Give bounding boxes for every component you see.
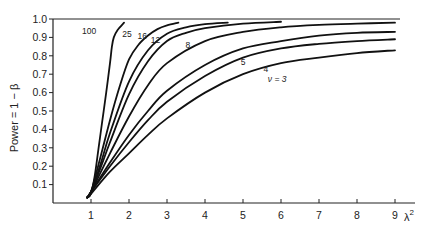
power-curve [87, 22, 281, 198]
y-tick-label: 0.9 [32, 31, 47, 43]
y-tick-label: 0.3 [32, 142, 47, 154]
x-tick-label: 8 [354, 209, 360, 221]
y-tick-label: 0.6 [32, 86, 47, 98]
x-axis-title-superscript: 2 [410, 208, 415, 217]
x-tick-label: 1 [88, 209, 94, 221]
y-axis-title: Power = 1 − β [8, 84, 20, 153]
x-tick-label: 2 [126, 209, 132, 221]
curve-label: 25 [122, 29, 132, 39]
x-tick-label: 4 [202, 209, 208, 221]
x-tick-label: 9 [392, 209, 398, 221]
power-curves-chart: 0.10.20.30.40.50.60.70.80.91.0 123456789… [0, 0, 437, 233]
x-axis-title: λ2 [404, 208, 415, 223]
curve-label: 16 [138, 31, 148, 41]
curve-label: ν = 3 [268, 74, 287, 84]
y-tick-label: 0.7 [32, 68, 47, 80]
x-tick-label: 3 [164, 209, 170, 221]
y-tick-label: 0.2 [32, 160, 47, 172]
y-axis-ticks: 0.10.20.30.40.50.60.70.80.91.0 [32, 13, 53, 191]
x-tick-label: 5 [240, 209, 246, 221]
y-tick-label: 0.8 [32, 50, 47, 62]
curve-label: 8 [186, 40, 191, 50]
power-curves [87, 22, 395, 198]
y-tick-label: 0.4 [32, 123, 47, 135]
x-tick-label: 7 [316, 209, 322, 221]
curve-label: 5 [241, 57, 246, 67]
x-axis-ticks: 123456789 [88, 199, 398, 221]
x-tick-label: 6 [278, 209, 284, 221]
y-tick-label: 1.0 [32, 13, 47, 25]
y-tick-label: 0.1 [32, 178, 47, 190]
y-tick-label: 0.5 [32, 105, 47, 117]
curve-label: 100 [82, 26, 96, 36]
curve-label: 12 [151, 35, 161, 45]
